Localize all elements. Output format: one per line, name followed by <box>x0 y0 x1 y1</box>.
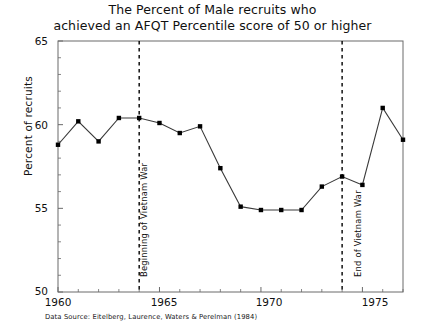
data-line <box>58 108 403 210</box>
data-markers <box>56 106 405 212</box>
chart-figure: The Percent of Male recruits who achieve… <box>0 0 425 327</box>
plot-frame <box>58 41 403 292</box>
axis-ticks <box>58 41 403 292</box>
vertical-event-lines <box>139 41 342 292</box>
plot-area <box>0 0 425 327</box>
data-source-note: Data Source: Eitelberg, Laurence, Waters… <box>45 313 257 321</box>
